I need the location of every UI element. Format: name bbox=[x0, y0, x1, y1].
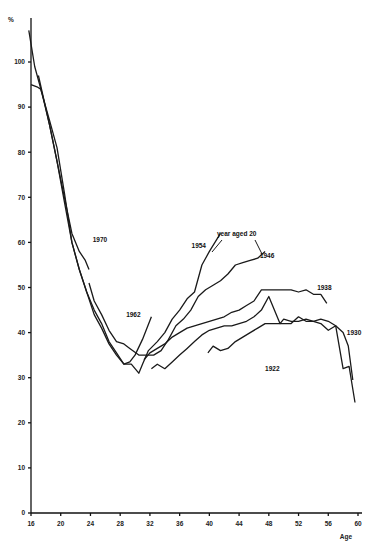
chart-canvas: 0102030405060708090100162024283236404448… bbox=[0, 0, 377, 545]
x-tick-label: 44 bbox=[235, 520, 243, 527]
x-tick-label: 16 bbox=[27, 520, 35, 527]
x-tick-label: 56 bbox=[325, 520, 333, 527]
y-tick-label: 100 bbox=[14, 58, 25, 65]
y-tick-label: 20 bbox=[18, 419, 26, 426]
series-line-1954 bbox=[38, 76, 220, 374]
annotation-leader-1946 bbox=[255, 240, 262, 254]
x-tick-label: 20 bbox=[57, 520, 65, 527]
annotation-leader-1954 bbox=[212, 240, 222, 252]
y-tick-label: 40 bbox=[18, 329, 26, 336]
x-tick-label: 24 bbox=[87, 520, 95, 527]
series-label-1938: 1938 bbox=[317, 284, 332, 291]
x-tick-label: 52 bbox=[295, 520, 303, 527]
series-label-1954: 1954 bbox=[192, 242, 207, 249]
series-label-1930: 1930 bbox=[347, 329, 362, 336]
x-axis-title: Age bbox=[340, 533, 353, 541]
series-line-1962 bbox=[31, 85, 151, 365]
series-line-1922 bbox=[208, 317, 355, 403]
y-tick-label: 70 bbox=[18, 194, 26, 201]
y-tick-label: 0 bbox=[21, 509, 25, 516]
x-tick-label: 48 bbox=[265, 520, 273, 527]
y-tick-label: 60 bbox=[18, 239, 26, 246]
series-label-1922: 1922 bbox=[265, 365, 280, 372]
y-tick-label: 50 bbox=[18, 284, 26, 291]
series-line-1970 bbox=[29, 30, 89, 269]
y-tick-label: 30 bbox=[18, 374, 26, 381]
y-axis-label: % bbox=[8, 16, 14, 23]
x-tick-label: 40 bbox=[206, 520, 214, 527]
series-lines bbox=[29, 30, 355, 402]
x-tick-label: 28 bbox=[117, 520, 125, 527]
y-tick-label: 90 bbox=[18, 103, 26, 110]
x-tick-label: 60 bbox=[354, 520, 362, 527]
x-tick-label: 32 bbox=[146, 520, 154, 527]
annotation-year-aged-20: year aged 20 bbox=[217, 230, 257, 238]
series-label-1962: 1962 bbox=[126, 311, 141, 318]
y-tick-label: 80 bbox=[18, 149, 26, 156]
axes: 0102030405060708090100162024283236404448… bbox=[8, 16, 362, 541]
series-label-1970: 1970 bbox=[93, 236, 108, 243]
x-tick-label: 36 bbox=[176, 520, 184, 527]
y-tick-label: 10 bbox=[18, 464, 26, 471]
series-line-1930 bbox=[151, 297, 352, 381]
